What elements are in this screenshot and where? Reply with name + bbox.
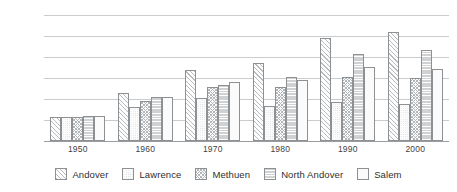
- bar-north-andover-1960: [151, 97, 162, 141]
- bar-methuen-2000: [410, 78, 421, 141]
- bar-north-andover-2000: [421, 50, 432, 141]
- bar-andover-1960: [118, 93, 129, 141]
- bar-lawrence-1970: [196, 98, 207, 141]
- bar-methuen-1960: [140, 101, 151, 141]
- legend-label: Methuen: [212, 169, 250, 180]
- x-axis-tick-label: 1980: [247, 144, 315, 158]
- bar-lawrence-1980: [264, 106, 275, 141]
- bar-andover-2000: [388, 32, 399, 141]
- population-bar-chart: 020,00040,00060,00080,000100,000120,000 …: [0, 0, 457, 192]
- bar-andover-1950: [50, 117, 61, 141]
- x-axis-tick-label: 2000: [382, 144, 450, 158]
- bar-salem-1970: [229, 82, 240, 141]
- legend-item-methuen[interactable]: Methuen: [195, 168, 250, 180]
- legend-item-north-andover[interactable]: North Andover: [264, 168, 343, 180]
- bar-salem-1950: [94, 116, 105, 141]
- legend-swatch-icon: [122, 168, 134, 180]
- plot-area: [44, 15, 449, 141]
- bar-lawrence-2000: [399, 104, 410, 141]
- bar-salem-1990: [364, 67, 375, 141]
- bar-methuen-1970: [207, 87, 218, 141]
- x-axis-tick-label: 1990: [314, 144, 382, 158]
- legend-label: Lawrence: [139, 169, 181, 180]
- chart-legend: AndoverLawrenceMethuenNorth AndoverSalem: [0, 164, 457, 184]
- x-axis-tick-label: 1970: [179, 144, 247, 158]
- bar-group-1990: [314, 15, 382, 141]
- legend-label: Andover: [72, 169, 108, 180]
- legend-item-salem[interactable]: Salem: [357, 168, 401, 180]
- bar-groups: [44, 15, 449, 141]
- legend-swatch-icon: [264, 168, 276, 180]
- legend-swatch-icon: [357, 168, 369, 180]
- legend-label: Salem: [374, 169, 401, 180]
- x-axis-labels: 195019601970198019902000: [44, 144, 449, 158]
- x-axis-tick-label: 1950: [44, 144, 112, 158]
- legend-label: North Andover: [281, 169, 343, 180]
- bar-group-1980: [247, 15, 315, 141]
- legend-item-lawrence[interactable]: Lawrence: [122, 168, 181, 180]
- bar-salem-2000: [432, 69, 443, 141]
- bar-salem-1960: [162, 97, 173, 141]
- x-axis-tick-label: 1960: [112, 144, 180, 158]
- bar-group-1960: [112, 15, 180, 141]
- bar-north-andover-1980: [286, 77, 297, 141]
- bar-lawrence-1990: [331, 102, 342, 141]
- legend-item-andover[interactable]: Andover: [55, 168, 108, 180]
- bar-andover-1970: [185, 70, 196, 141]
- gridline: [44, 141, 449, 142]
- bar-lawrence-1960: [129, 107, 140, 141]
- bar-north-andover-1990: [353, 54, 364, 141]
- bar-north-andover-1950: [83, 116, 94, 141]
- legend-swatch-icon: [195, 168, 207, 180]
- bar-salem-1980: [297, 80, 308, 141]
- bar-andover-1980: [253, 63, 264, 141]
- bar-methuen-1980: [275, 87, 286, 141]
- bar-methuen-1990: [342, 77, 353, 141]
- bar-group-1970: [179, 15, 247, 141]
- bar-andover-1990: [320, 38, 331, 141]
- legend-swatch-icon: [55, 168, 67, 180]
- bar-north-andover-1970: [218, 85, 229, 141]
- bar-group-1950: [44, 15, 112, 141]
- bar-methuen-1950: [72, 117, 83, 141]
- bar-group-2000: [382, 15, 450, 141]
- bar-lawrence-1950: [61, 117, 72, 141]
